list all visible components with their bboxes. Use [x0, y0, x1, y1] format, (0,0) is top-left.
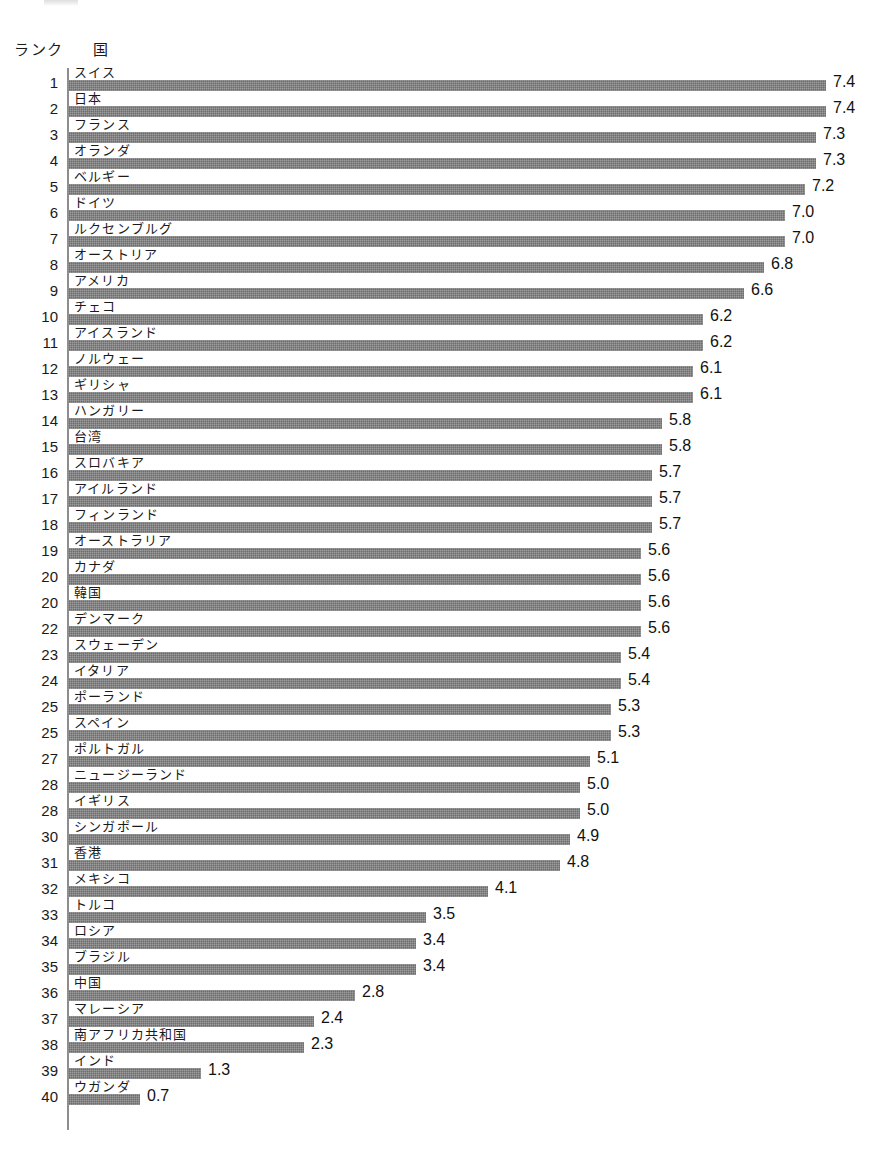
- rank-label: 12: [0, 361, 58, 377]
- bar-value-label: 6.2: [710, 308, 732, 324]
- bar-row: 23スウェーデン5.4: [0, 640, 873, 666]
- bar-value-label: 5.7: [659, 464, 681, 480]
- rank-label: 20: [0, 595, 58, 611]
- bar: [68, 782, 580, 793]
- rank-label: 16: [0, 465, 58, 481]
- country-label: スイス: [74, 66, 117, 80]
- bar: [68, 210, 785, 221]
- country-label: イギリス: [74, 794, 131, 808]
- rank-label: 11: [0, 335, 58, 351]
- rank-label: 37: [0, 1011, 58, 1027]
- bar-row: 12ノルウェー6.1: [0, 354, 873, 380]
- country-label: ブラジル: [74, 950, 131, 964]
- bar-value-label: 6.1: [700, 360, 722, 376]
- bar: [68, 574, 641, 585]
- bar-row: 38南アフリカ共和国2.3: [0, 1030, 873, 1056]
- bar: [68, 678, 621, 689]
- bar-value-label: 5.8: [669, 412, 691, 428]
- rank-label: 14: [0, 413, 58, 429]
- rank-label: 35: [0, 959, 58, 975]
- bar: [68, 808, 580, 819]
- rank-label: 25: [0, 725, 58, 741]
- bar-value-label: 5.6: [648, 594, 670, 610]
- bar-row: 4オランダ7.3: [0, 146, 873, 172]
- country-label: メキシコ: [74, 872, 131, 886]
- rank-label: 19: [0, 543, 58, 559]
- bar: [68, 340, 703, 351]
- bar-value-label: 4.8: [567, 854, 589, 870]
- bar-row: 34ロシア3.4: [0, 926, 873, 952]
- bar-value-label: 5.4: [628, 646, 650, 662]
- country-label: ドイツ: [74, 196, 117, 210]
- bar: [68, 990, 355, 1001]
- column-header-country: 国: [93, 38, 110, 59]
- bar-value-label: 2.4: [321, 1010, 343, 1026]
- country-label: シンガポール: [74, 820, 159, 834]
- bar: [68, 834, 570, 845]
- country-label: スペイン: [74, 716, 130, 730]
- bar-value-label: 5.3: [618, 724, 640, 740]
- country-label: アイスランド: [74, 326, 158, 340]
- bar-value-label: 3.5: [433, 906, 455, 922]
- bar-value-label: 7.0: [792, 204, 814, 220]
- rank-label: 33: [0, 907, 58, 923]
- rank-label: 20: [0, 569, 58, 585]
- bar: [68, 158, 816, 169]
- country-label: ポルトガル: [74, 742, 145, 756]
- bar: [68, 886, 488, 897]
- bar-row: 14ハンガリー5.8: [0, 406, 873, 432]
- bar-value-label: 6.6: [751, 282, 773, 298]
- country-label: フィンランド: [74, 508, 159, 522]
- country-label: ベルギー: [74, 170, 131, 184]
- bar-value-label: 7.3: [823, 126, 845, 142]
- bar-value-label: 7.4: [833, 100, 855, 116]
- rank-label: 3: [0, 127, 58, 143]
- bar-value-label: 3.4: [423, 932, 445, 948]
- bar-row: 33トルコ3.5: [0, 900, 873, 926]
- rank-label: 10: [0, 309, 58, 325]
- bar-value-label: 5.6: [648, 620, 670, 636]
- rank-label: 30: [0, 829, 58, 845]
- rank-label: 18: [0, 517, 58, 533]
- country-label: 日本: [74, 92, 102, 106]
- bar: [68, 444, 662, 455]
- bar: [68, 236, 785, 247]
- bar: [68, 106, 826, 117]
- country-label: ノルウェー: [74, 352, 145, 366]
- bar-row: 30シンガポール4.9: [0, 822, 873, 848]
- bar: [68, 1094, 140, 1105]
- country-label: デンマーク: [74, 612, 145, 626]
- bar: [68, 262, 764, 273]
- bar-row: 25ポーランド5.3: [0, 692, 873, 718]
- bar-row: 1スイス7.4: [0, 68, 873, 94]
- bar: [68, 184, 805, 195]
- bar: [68, 418, 662, 429]
- bar-row: 8オーストリア6.8: [0, 250, 873, 276]
- country-label: アメリカ: [74, 274, 130, 288]
- bar-value-label: 5.8: [669, 438, 691, 454]
- bar-value-label: 7.2: [812, 178, 834, 194]
- rank-label: 36: [0, 985, 58, 1001]
- bar-value-label: 5.6: [648, 568, 670, 584]
- rank-label: 25: [0, 699, 58, 715]
- bar-value-label: 5.4: [628, 672, 650, 688]
- rank-label: 40: [0, 1089, 58, 1105]
- rank-label: 32: [0, 881, 58, 897]
- bar-value-label: 6.8: [771, 256, 793, 272]
- bar: [68, 912, 426, 923]
- rank-label: 6: [0, 205, 58, 221]
- bar-row: 2日本7.4: [0, 94, 873, 120]
- country-label: 台湾: [74, 430, 102, 444]
- bar-value-label: 5.7: [659, 516, 681, 532]
- bar-row: 19オーストラリア5.6: [0, 536, 873, 562]
- rank-label: 5: [0, 179, 58, 195]
- bar-value-label: 7.0: [792, 230, 814, 246]
- country-label: 韓国: [74, 586, 102, 600]
- rank-label: 8: [0, 257, 58, 273]
- bar: [68, 288, 744, 299]
- bar-value-label: 2.3: [311, 1036, 333, 1052]
- bar: [68, 730, 611, 741]
- bar-row: 9アメリカ6.6: [0, 276, 873, 302]
- bar: [68, 496, 652, 507]
- bar-row: 20カナダ5.6: [0, 562, 873, 588]
